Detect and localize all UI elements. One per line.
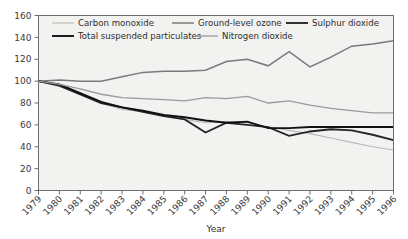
x-tick-label: 1993 [312,194,335,217]
legend-label-carbon-monoxide: Carbon monoxide [78,18,154,28]
x-tick-label: 1990 [250,194,273,217]
y-tick-label: 40 [20,142,32,152]
x-tick-label: 1980 [41,194,64,217]
y-tick-label: 0 [26,186,32,196]
x-tick-label: 1995 [354,194,377,217]
y-axis-ticks [35,16,39,191]
legend-label-total-suspended-particulates: Total suspended particulates [77,31,202,41]
legend-label-sulphur-dioxide: Sulphur dioxide [312,18,379,28]
plot-background [39,16,394,191]
y-tick-label: 20 [20,164,32,174]
x-tick-label: 1987 [187,194,210,217]
y-tick-label: 160 [14,11,31,21]
y-tick-label: 60 [20,120,32,130]
x-tick-label: 1986 [166,194,189,217]
x-axis-tick-labels: 1979198019811982198319841985198619871988… [20,194,398,217]
x-tick-label: 1983 [104,194,127,217]
chart-page: 020406080100120140160 197919801981198219… [0,0,408,239]
legend-label-nitrogen-dioxide: Nitrogen dioxide [222,31,293,41]
y-tick-label: 80 [20,98,32,108]
x-tick-label: 1989 [229,194,252,217]
pollutant-trends-line-chart: 020406080100120140160 197919801981198219… [0,0,408,239]
x-tick-label: 1994 [333,194,356,217]
legend-label-ground-level-ozone: Ground-level ozone [198,18,282,28]
x-tick-label: 1979 [20,194,43,217]
x-tick-label: 1984 [125,194,148,217]
x-axis-title: Year [205,224,225,234]
y-tick-label: 140 [14,33,31,43]
y-tick-label: 120 [14,54,31,64]
y-axis-tick-labels: 020406080100120140160 [14,11,31,196]
x-tick-label: 1992 [292,194,315,217]
y-tick-label: 100 [14,76,31,86]
x-tick-label: 1985 [145,194,168,217]
x-tick-label: 1988 [208,194,231,217]
x-tick-label: 1996 [375,194,398,217]
x-tick-label: 1981 [62,194,85,217]
x-tick-label: 1991 [271,194,294,217]
x-axis-ticks [39,191,394,195]
x-tick-label: 1982 [83,194,106,217]
